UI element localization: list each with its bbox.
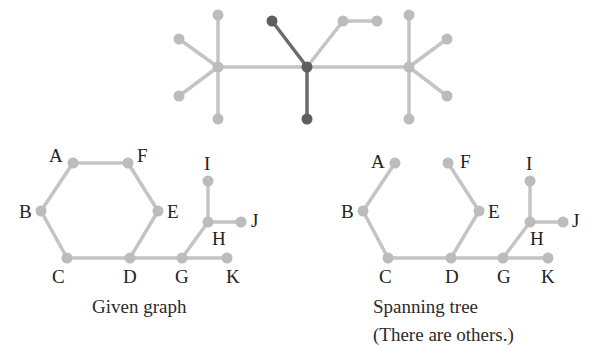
graph-edge bbox=[409, 39, 447, 67]
vertex-label-j: J bbox=[572, 210, 579, 231]
graph-node bbox=[404, 10, 415, 21]
graph-edge bbox=[272, 21, 307, 67]
top-tree-graph bbox=[174, 10, 453, 125]
vertex-g bbox=[498, 253, 509, 264]
vertex-label-a: A bbox=[371, 151, 385, 172]
graph-node bbox=[442, 91, 453, 102]
vertex-label-i: I bbox=[204, 153, 210, 174]
edge-b-c bbox=[363, 211, 388, 258]
vertex-label-e: E bbox=[167, 201, 179, 222]
spanning-tree-note: (There are others.) bbox=[373, 324, 514, 346]
vertex-label-f: F bbox=[460, 151, 471, 172]
vertex-label-h: H bbox=[212, 228, 226, 249]
graph-node bbox=[174, 34, 185, 45]
vertex-a bbox=[68, 158, 79, 169]
vertex-h bbox=[203, 217, 214, 228]
vertex-b bbox=[358, 206, 369, 217]
vertex-e bbox=[474, 206, 485, 217]
vertex-c bbox=[62, 253, 73, 264]
graph-edge bbox=[409, 67, 447, 96]
edge-a-b bbox=[41, 163, 73, 211]
edge-d-e bbox=[451, 211, 479, 258]
vertex-g bbox=[177, 253, 188, 264]
graph-node bbox=[302, 62, 313, 73]
vertex-b bbox=[36, 206, 47, 217]
vertex-a bbox=[390, 158, 401, 169]
vertex-i bbox=[203, 176, 214, 187]
vertex-h bbox=[525, 217, 536, 228]
vertex-label-d: D bbox=[445, 266, 459, 287]
vertex-k bbox=[222, 253, 233, 264]
vertex-k bbox=[543, 253, 554, 264]
graph-node bbox=[213, 10, 224, 21]
vertex-label-d: D bbox=[123, 266, 137, 287]
vertex-label-f: F bbox=[137, 145, 148, 166]
vertex-j bbox=[558, 217, 569, 228]
vertex-label-b: B bbox=[19, 201, 32, 222]
vertex-f bbox=[443, 158, 454, 169]
vertex-label-c: C bbox=[379, 266, 392, 287]
vertex-label-g: G bbox=[175, 266, 189, 287]
vertex-label-e: E bbox=[488, 201, 500, 222]
vertex-label-a: A bbox=[49, 145, 63, 166]
graph-node bbox=[442, 34, 453, 45]
graph-node bbox=[267, 16, 278, 27]
vertex-c bbox=[383, 253, 394, 264]
given-graph: AFBECDGKHIJ bbox=[19, 145, 258, 287]
vertex-j bbox=[236, 217, 247, 228]
vertex-label-k: K bbox=[541, 266, 555, 287]
graph-node bbox=[404, 62, 415, 73]
vertex-d bbox=[446, 253, 457, 264]
edge-d-e bbox=[130, 211, 158, 258]
vertex-i bbox=[525, 176, 536, 187]
graph-node bbox=[338, 16, 349, 27]
spanning-tree-graph: AFBECDGKHIJ bbox=[341, 151, 579, 287]
graph-node bbox=[372, 16, 383, 27]
graph-edge bbox=[179, 67, 218, 96]
vertex-label-c: C bbox=[52, 266, 65, 287]
edge-e-f bbox=[128, 163, 158, 211]
edge-b-c bbox=[41, 211, 67, 258]
vertex-label-h: H bbox=[530, 228, 544, 249]
given-graph-caption: Given graph bbox=[92, 296, 187, 317]
edge-g-h bbox=[503, 222, 530, 258]
vertex-label-b: B bbox=[341, 201, 354, 222]
graph-node bbox=[174, 91, 185, 102]
graph-edge bbox=[179, 39, 218, 67]
graph-node bbox=[404, 114, 415, 125]
vertex-d bbox=[125, 253, 136, 264]
spanning-tree-caption: Spanning tree bbox=[373, 296, 478, 317]
vertex-e bbox=[153, 206, 164, 217]
vertex-label-g: G bbox=[497, 266, 511, 287]
diagram-canvas: AFBECDGKHIJ AFBECDGKHIJ Given graph Span… bbox=[0, 0, 598, 351]
edge-g-h bbox=[182, 222, 208, 258]
graph-node bbox=[213, 62, 224, 73]
vertex-f bbox=[123, 158, 134, 169]
graph-node bbox=[213, 114, 224, 125]
graph-edge bbox=[307, 21, 343, 67]
vertex-label-i: I bbox=[526, 153, 532, 174]
graph-node bbox=[302, 114, 313, 125]
vertex-label-j: J bbox=[251, 210, 258, 231]
vertex-label-k: K bbox=[226, 266, 240, 287]
